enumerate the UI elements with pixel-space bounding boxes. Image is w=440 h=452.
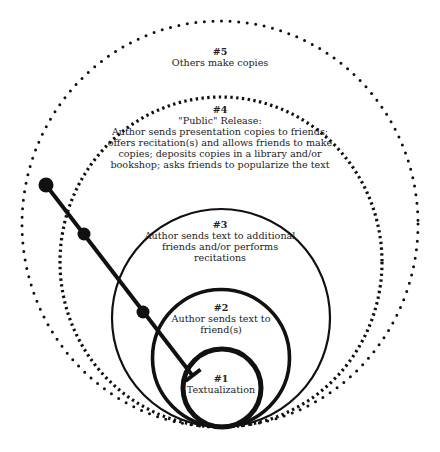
stage-5-text: Others make copies <box>172 57 268 68</box>
stage-4-label: #4 "Public" Release: Author sends presen… <box>108 104 333 170</box>
timeline-node-start <box>39 178 54 193</box>
stage-2-text-line-1: Author sends text to <box>172 313 271 324</box>
stage-3-number: #3 <box>145 219 296 230</box>
stage-2-text-line-2: friend(s) <box>172 324 271 335</box>
stage-1-label: #1 Textualization <box>187 373 255 395</box>
stage-3-label: #3 Author sends text to additional frien… <box>145 219 296 263</box>
stage-4-text-line-2: offers recitation(s) and allows friends … <box>108 137 333 148</box>
timeline-node-middle <box>78 228 91 241</box>
stage-3-text-line-3: recitations <box>145 252 296 263</box>
stage-5-label: #5 Others make copies <box>172 46 268 68</box>
stage-1-text: Textualization <box>187 384 255 395</box>
stage-4-text-line-3: copies; deposits copies in a library and… <box>108 148 333 159</box>
stage-2-label: #2 Author sends text to friend(s) <box>172 302 271 335</box>
stage-3-text-line-1: Author sends text to additional <box>145 230 296 241</box>
stage-5-number: #5 <box>172 46 268 57</box>
stage-4-number: #4 <box>108 104 333 115</box>
stage-4-text-line-1: Author sends presentation copies to frie… <box>108 126 333 137</box>
stage-4-title: "Public" Release: <box>108 115 333 126</box>
timeline-line <box>46 185 192 375</box>
stage-2-number: #2 <box>172 302 271 313</box>
stage-4-text-line-4: bookshop; asks friends to popularize the… <box>108 159 333 170</box>
stage-3-text-line-2: friends and/or performs <box>145 241 296 252</box>
stage-1-number: #1 <box>187 373 255 384</box>
timeline-node-inner <box>137 306 150 319</box>
